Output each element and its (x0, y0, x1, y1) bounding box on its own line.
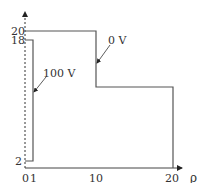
outer-voltage-label: 0 V (108, 34, 127, 47)
y-tick-2: 2 (15, 155, 22, 168)
x-tick-0: 0 (22, 172, 29, 183)
y-tick-18: 18 (11, 34, 25, 47)
outer-voltage-arrow (97, 45, 110, 63)
inner-electrode-boundary (25, 40, 33, 161)
x-tick-10: 10 (89, 172, 103, 183)
inner-voltage-label: 100 V (43, 67, 76, 80)
outer-electrode-boundary (25, 31, 173, 168)
x-tick-20: 20 (165, 172, 179, 183)
x-axis-label: ρ (190, 171, 197, 183)
diagram: 100 V 0 V 20 18 2 0 1 10 20 ρ (0, 0, 210, 183)
x-tick-1: 1 (30, 172, 37, 183)
